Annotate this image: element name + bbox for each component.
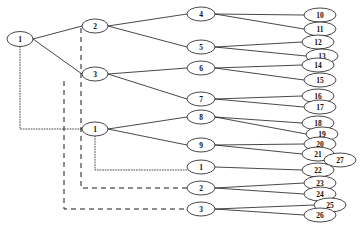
- dashed-edge-n3-n3b: [64, 81, 187, 209]
- node-label: 26: [316, 211, 324, 220]
- node-label: 10: [316, 11, 324, 20]
- node-8-n8[interactable]: 8: [187, 110, 215, 124]
- node-label: 24: [316, 190, 324, 199]
- edge-n7-n16: [215, 96, 302, 99]
- node-label: 11: [316, 25, 323, 34]
- edge-n3b-n25: [215, 205, 314, 209]
- node-label: 7: [199, 95, 203, 104]
- edge-n2b-n24: [215, 188, 304, 194]
- dotted-edge-layer: [20, 47, 187, 171]
- node-label: 16: [314, 92, 322, 101]
- node-4-n4[interactable]: 4: [187, 7, 215, 21]
- node-label: 22: [314, 166, 322, 175]
- node-12-n12[interactable]: 12: [302, 35, 334, 49]
- node-label: 12: [314, 38, 322, 47]
- edge-n2-n4: [108, 14, 187, 26]
- node-1-n1c[interactable]: 1: [187, 160, 215, 174]
- node-2-n2[interactable]: 2: [82, 19, 108, 33]
- node-label: 2: [199, 184, 203, 193]
- node-label: 1: [18, 35, 22, 44]
- edge-n3b-n26: [215, 209, 304, 215]
- node-6-n6[interactable]: 6: [187, 61, 215, 75]
- node-2-n2b[interactable]: 2: [187, 181, 215, 195]
- node-label: 9: [199, 141, 203, 150]
- node-1-n1[interactable]: 1: [7, 32, 33, 47]
- edge-n1-n3: [33, 39, 82, 74]
- node-5-n5[interactable]: 5: [187, 40, 215, 54]
- dashed-edge-layer: [64, 28, 187, 209]
- node-26-n26[interactable]: 26: [304, 208, 336, 222]
- edge-n6-n15: [215, 68, 304, 80]
- node-22-n22[interactable]: 22: [302, 163, 334, 177]
- node-label: 3: [93, 70, 97, 79]
- node-3-n3b[interactable]: 3: [187, 202, 215, 216]
- tree-graph-svg: 1231456789123101112131415161718192021272…: [0, 0, 360, 227]
- edge-n4-n10: [215, 14, 304, 15]
- node-label: 1: [199, 163, 203, 172]
- edge-n8-n19: [215, 117, 306, 134]
- node-15-n15[interactable]: 15: [304, 73, 336, 87]
- node-label: 18: [314, 119, 322, 128]
- node-label: 27: [336, 156, 344, 165]
- node-layer: 1231456789123101112131415161718192021272…: [7, 7, 356, 222]
- edge-n1b-n8: [108, 117, 187, 129]
- node-17-n17[interactable]: 17: [304, 100, 336, 114]
- edge-n2-n5: [108, 26, 187, 47]
- node-9-n9[interactable]: 9: [187, 138, 215, 152]
- node-7-n7[interactable]: 7: [187, 92, 215, 106]
- node-11-n11[interactable]: 11: [304, 22, 336, 36]
- node-label: 6: [199, 64, 203, 73]
- node-14-n14[interactable]: 14: [302, 58, 334, 72]
- node-3-n3[interactable]: 3: [82, 67, 108, 81]
- edge-n7-n17: [215, 99, 304, 107]
- edge-n6-n14: [215, 65, 302, 68]
- node-1-n1b[interactable]: 1: [82, 122, 108, 136]
- edge-n4-n11: [215, 14, 304, 29]
- node-label: 3: [199, 205, 203, 214]
- edge-n1c-n22: [215, 167, 302, 170]
- node-10-n10[interactable]: 10: [304, 8, 336, 22]
- node-label: 2: [93, 22, 97, 31]
- node-label: 4: [199, 10, 203, 19]
- node-label: 8: [199, 113, 203, 122]
- edge-n9-n21: [215, 145, 302, 154]
- edge-n2b-n23: [215, 183, 304, 188]
- edge-n1b-n9: [108, 129, 187, 145]
- node-label: 1: [93, 125, 97, 134]
- dotted-edge-n1-n1b: [20, 47, 82, 130]
- diagram-canvas: 1231456789123101112131415161718192021272…: [0, 0, 360, 227]
- edge-n3-n7: [108, 74, 187, 99]
- node-label: 5: [199, 43, 203, 52]
- node-label: 15: [316, 76, 324, 85]
- edge-n5-n13: [215, 47, 306, 56]
- node-label: 14: [314, 61, 322, 70]
- edge-n8-n18: [215, 117, 302, 123]
- edge-n3-n6: [108, 68, 187, 74]
- node-label: 21: [314, 150, 322, 159]
- edge-n1-n2: [33, 26, 82, 39]
- edge-n5-n12: [215, 42, 302, 47]
- node-label: 17: [316, 103, 324, 112]
- solid-edge-layer: [33, 14, 334, 215]
- dashed-edge-n2-n2b: [81, 28, 187, 188]
- edge-n9-n20: [215, 144, 304, 145]
- node-label: 23: [316, 179, 324, 188]
- dotted-edge-n1b-n1c: [95, 136, 187, 170]
